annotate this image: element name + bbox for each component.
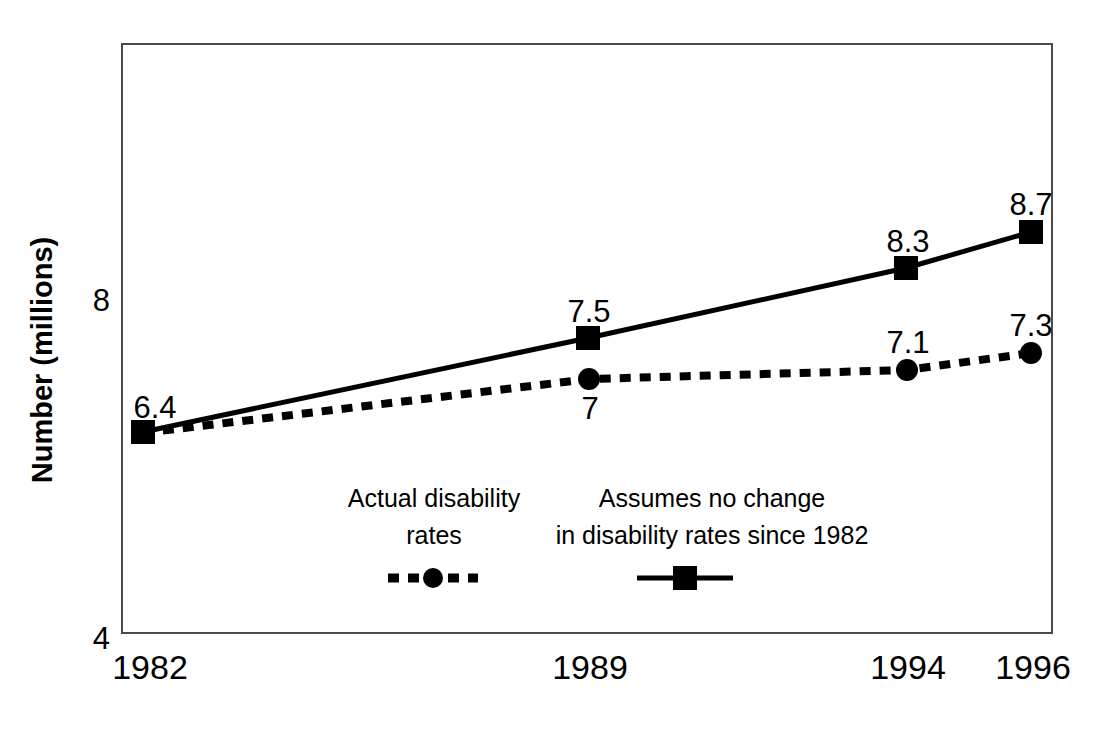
legend-label-assumes-line1: Assumes no change	[599, 484, 826, 513]
point-label-solid-1989: 7.5	[567, 294, 610, 330]
x-tick-label-1994: 1994	[870, 648, 946, 687]
x-tick-label-1996: 1996	[995, 648, 1071, 687]
y-tick-label-4: 4	[78, 621, 110, 657]
point-label-solid-1994: 8.3	[886, 224, 929, 260]
point-label-dotted-1994: 7.1	[886, 325, 929, 361]
legend-label-actual-line2: rates	[406, 521, 462, 550]
chart-page: Number (millions) 8 4	[0, 0, 1105, 733]
x-tick-label-1982: 1982	[112, 648, 188, 687]
point-label-solid-1996: 8.7	[1009, 187, 1052, 223]
x-tick-label-1989: 1989	[552, 648, 628, 687]
y-tick-label-8: 8	[78, 283, 110, 319]
legend-label-assumes-line2: in disability rates since 1982	[556, 521, 869, 550]
point-label-dotted-1996: 7.3	[1009, 308, 1052, 344]
y-axis-title: Number (millions)	[26, 237, 59, 484]
point-label-1982-shared: 6.4	[133, 390, 176, 426]
point-label-dotted-1989: 7	[581, 391, 598, 427]
legend-label-actual-line1: Actual disability	[348, 484, 520, 513]
